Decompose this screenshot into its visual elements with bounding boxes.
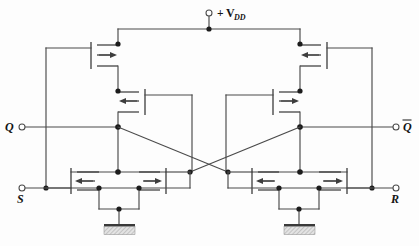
pmos-mid-left-arrow-head [119, 98, 126, 104]
node-nmos-l-g1 [96, 185, 101, 190]
node-pmos-top-left-d [115, 41, 120, 46]
ground-right-hatch [284, 227, 315, 235]
s-terminal[interactable] [19, 185, 25, 191]
pmos-top-left-arrow-head [110, 52, 117, 58]
ground-left-bar [104, 224, 135, 227]
ground-left-hatch [104, 227, 135, 235]
nmos-left-outer-arrow-head [75, 178, 82, 184]
nmos-bottom-right-group [228, 168, 372, 225]
node-gnd-left [116, 206, 121, 211]
node-pmos-mid-right-d [297, 88, 302, 93]
node-left-drain [115, 169, 121, 175]
labels-group: + V DD Q Q S R [5, 6, 412, 206]
q-terminal[interactable] [19, 124, 25, 130]
node-gnd-right [296, 206, 301, 211]
node-nmos-l-g2 [136, 185, 141, 190]
nmos-bottom-left-group [46, 168, 190, 225]
node-right-drain [297, 169, 303, 175]
nmos-right-outer-arrow-head [336, 178, 343, 184]
ground-right-bar [284, 224, 315, 227]
vdd-plus-label: + [217, 7, 224, 19]
circuit-schematic-canvas: + V DD Q Q S R [0, 0, 419, 246]
set-input-label: S [17, 192, 24, 206]
ground-left [104, 224, 135, 235]
r-terminal[interactable] [393, 185, 399, 191]
cross-wire-qbar-to-left [190, 127, 300, 172]
cross-couple-group [118, 127, 300, 175]
left-feedback-rail-group [43, 48, 48, 191]
pmos-top-right-arrow-head [301, 52, 308, 58]
node-pmos-top-right-d [297, 41, 302, 46]
ground-right [284, 224, 315, 235]
q-output-label: Q [5, 120, 14, 134]
reset-input-label: R [390, 192, 399, 206]
pmos-top-right [297, 41, 372, 91]
pmos-mid-right-arrow-head [292, 98, 299, 104]
nmos-right-inner-arrow-head [256, 178, 263, 184]
node-pmos-mid-left-d [115, 88, 120, 93]
cross-wire-q-to-right [118, 127, 228, 172]
node-nmos-r-g2 [316, 185, 321, 190]
right-feedback-rail-group [369, 48, 374, 191]
supply-rail-group [118, 10, 300, 44]
vdd-subscript-label: DD [233, 13, 246, 22]
vdd-terminal[interactable] [206, 10, 212, 16]
node-vdd-rail [206, 26, 211, 31]
nmos-left-inner-arrow-head [155, 178, 162, 184]
qbar-output-label: Q [403, 120, 412, 134]
pmos-top-left [46, 41, 121, 91]
qbar-terminal[interactable] [393, 124, 399, 130]
node-nmos-r-g1 [276, 185, 281, 190]
circuit-diagram-root: + V DD Q Q S R [0, 0, 419, 246]
